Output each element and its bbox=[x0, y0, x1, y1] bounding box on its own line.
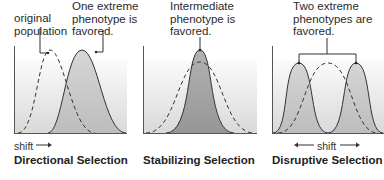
panel-disruptive bbox=[272, 38, 384, 134]
label-line: population bbox=[14, 25, 67, 38]
label-line: favored. bbox=[170, 25, 235, 38]
title-stabilizing-selection: Stabilizing Selection bbox=[143, 154, 255, 166]
label-line: original bbox=[14, 12, 67, 25]
label-intermediate-favored: Intermediate phenotype is favored. bbox=[170, 0, 235, 38]
label-original-population: original population bbox=[14, 12, 67, 37]
label-line: phenotype is bbox=[72, 13, 138, 26]
label-line: favored. bbox=[72, 25, 138, 38]
label-one-extreme-favored: One extreme phenotype is favored. bbox=[72, 0, 138, 38]
label-line: favored. bbox=[293, 25, 372, 38]
shift-arrow-left-disruptive bbox=[294, 143, 314, 148]
label-line: One extreme bbox=[72, 0, 138, 13]
label-line: Intermediate bbox=[170, 0, 235, 13]
panel-directional bbox=[14, 28, 127, 134]
label-two-extremes-favored: Two extreme phenotypes are favored. bbox=[293, 0, 372, 38]
shift-label-disruptive: shift bbox=[317, 140, 336, 152]
panel-stabilizing bbox=[143, 37, 257, 134]
title-disruptive-selection: Disruptive Selection bbox=[272, 154, 383, 166]
shift-arrow-right-disruptive bbox=[340, 143, 360, 148]
label-line: Two extreme bbox=[293, 0, 372, 13]
label-line: phenotype is bbox=[170, 13, 235, 26]
shift-arrow-right-directional bbox=[36, 143, 52, 148]
label-line: phenotypes are bbox=[293, 13, 372, 26]
title-directional-selection: Directional Selection bbox=[14, 154, 128, 166]
shift-label-directional: shift bbox=[14, 140, 33, 152]
